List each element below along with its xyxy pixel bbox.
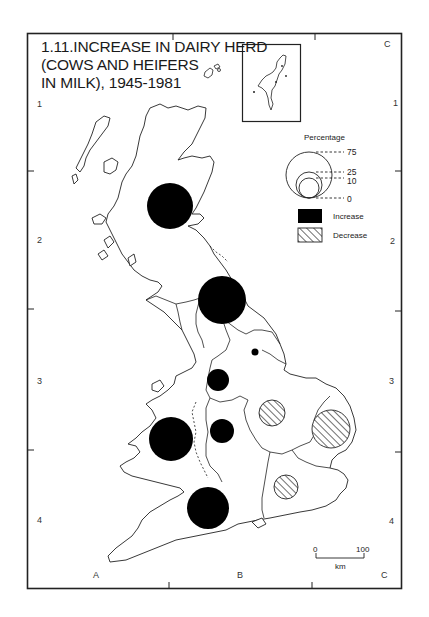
grid-row-4-left: 4 — [37, 515, 42, 525]
legend-value-0: 0 — [347, 194, 352, 204]
title-line-1: 1.11.INCREASE IN DAIRY HERD — [41, 38, 267, 56]
legend-increase-swatch — [298, 209, 322, 223]
region-circle-increase — [252, 349, 259, 356]
grid-col-c-top: C — [384, 39, 391, 49]
grid-row-3-left: 3 — [37, 376, 42, 386]
region-circle-increase — [207, 369, 229, 391]
title-line-3: IN MILK), 1945-1981 — [41, 74, 267, 92]
legend-decrease-swatch — [298, 228, 322, 242]
grid-col-c-bottom: C — [381, 570, 388, 580]
legend-value-10: 10 — [347, 176, 356, 186]
grid-row-2-right: 2 — [390, 236, 395, 246]
region-circle-increase — [147, 183, 193, 229]
title-line-2: (COWS AND HEIFERS — [41, 56, 267, 74]
region-circle-increase — [149, 417, 193, 461]
map-canvas — [0, 0, 429, 617]
grid-col-a-bottom: A — [93, 570, 99, 580]
scale-unit-label: km — [335, 562, 346, 571]
grid-row-2-left: 2 — [37, 235, 42, 245]
legend-size-circles — [286, 152, 344, 198]
region-circle-increase — [198, 276, 246, 324]
scale-start-label: 0 — [313, 545, 317, 554]
map-title: 1.11.INCREASE IN DAIRY HERD (COWS AND HE… — [41, 38, 267, 92]
grid-row-4-right: 4 — [389, 516, 394, 526]
grid-col-b-bottom: B — [237, 570, 243, 580]
map-figure: 1.11.INCREASE IN DAIRY HERD (COWS AND HE… — [0, 0, 429, 617]
grid-row-1-left: 1 — [37, 99, 42, 109]
region-circle-decrease — [259, 400, 285, 426]
legend-decrease-label: Decrease — [333, 231, 367, 240]
scale-end-label: 100 — [356, 545, 369, 554]
legend-title: Percentage — [304, 133, 345, 142]
legend-increase-label: Increase — [333, 212, 364, 221]
grid-row-3-right: 3 — [389, 376, 394, 386]
region-circle-decrease — [274, 475, 298, 499]
grid-row-1-right: 1 — [393, 98, 398, 108]
region-circle-increase — [187, 487, 229, 529]
region-circle-increase — [210, 419, 234, 443]
region-circle-decrease — [312, 410, 350, 448]
legend-value-75: 75 — [347, 147, 356, 157]
